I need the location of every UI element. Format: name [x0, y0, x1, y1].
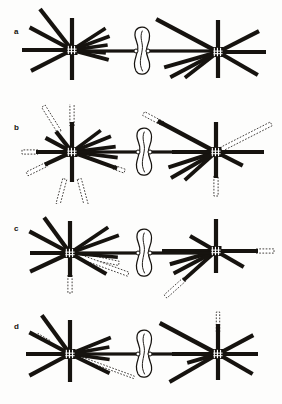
kinetochore — [146, 49, 150, 53]
solid-microtubule — [159, 321, 219, 356]
right-pole — [213, 349, 224, 359]
dashed-microtubule — [42, 105, 61, 133]
dashed-microtubule — [68, 275, 72, 293]
spindle-diagram-d — [0, 303, 282, 403]
panel-label-a: a — [14, 28, 18, 36]
chromosome — [134, 27, 150, 74]
left-pole — [65, 248, 76, 258]
solid-microtubule — [155, 17, 219, 54]
spindle-diagram-b — [0, 104, 282, 204]
panel-label-d: d — [14, 323, 19, 331]
right-pole — [211, 246, 222, 256]
spindle-diagram-c — [0, 205, 282, 305]
left-pole — [67, 45, 78, 55]
kinetochore — [136, 352, 140, 356]
dashed-microtubule — [214, 176, 218, 196]
panel-d: d — [0, 303, 282, 403]
dashed-microtubule — [77, 179, 89, 205]
panel-label-c: c — [14, 225, 18, 233]
kinetochore — [136, 251, 140, 255]
dashed-microtubule — [26, 162, 48, 175]
figure-canvas: abcd — [0, 0, 282, 404]
solid-microtubule — [157, 119, 217, 154]
solid-microtubule — [169, 352, 220, 383]
kinetochore — [134, 49, 138, 53]
right-pole — [211, 147, 222, 157]
spindle-diagram-a — [0, 4, 282, 104]
left-pole — [67, 147, 78, 157]
left-pole — [65, 349, 76, 359]
kinetochore — [148, 352, 152, 356]
chromosome — [136, 229, 152, 276]
dashed-microtubule — [56, 179, 67, 205]
panel-a: a — [0, 4, 282, 104]
panel-c: c — [0, 205, 282, 305]
dashed-microtubule — [22, 150, 38, 154]
solid-microtubule — [38, 8, 73, 52]
kinetochore — [136, 150, 140, 154]
dashed-microtubule — [220, 122, 272, 151]
dashed-microtubule — [164, 278, 186, 299]
kinetochore — [148, 150, 152, 154]
dashed-microtubule — [256, 249, 274, 253]
right-pole — [213, 47, 224, 57]
chromosome — [136, 330, 152, 377]
chromosome — [136, 128, 152, 175]
panel-label-b: b — [14, 124, 19, 132]
kinetochore — [148, 251, 152, 255]
panel-b: b — [0, 104, 282, 204]
